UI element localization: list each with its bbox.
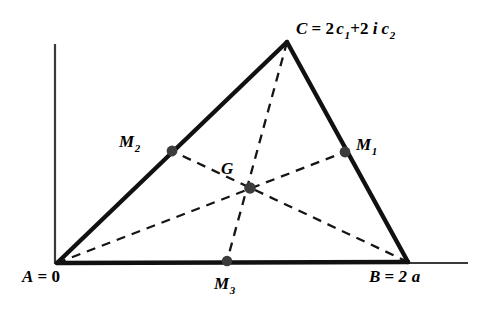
point-marker-m3 (222, 256, 232, 266)
label-m2-sub: 2 (134, 142, 140, 154)
label-vertex-a: A = 0 (22, 268, 60, 285)
label-c-coeff-1: 2 (326, 19, 335, 38)
label-g-name: G (221, 159, 233, 178)
label-point-m2: M2 (119, 133, 141, 154)
label-vertex-c: C = 2 c1+2 i c2 (296, 20, 395, 41)
label-c-sub-2: 2 (389, 29, 395, 41)
geometry-figure: A = 0 B = 2 a C = 2 c1+2 i c2 M1 M2 M3 G (0, 0, 492, 322)
median-a-m1 (57, 152, 345, 263)
label-c-equals: = (311, 19, 321, 38)
label-point-m1: M1 (356, 136, 378, 157)
label-a-value: 0 (52, 267, 61, 286)
label-a-equals: = (37, 267, 47, 286)
label-m3-sub: 3 (229, 284, 235, 296)
label-c-name: C (296, 19, 308, 38)
label-point-m3: M3 (214, 275, 236, 296)
label-m2-name: M (119, 132, 134, 151)
label-point-g: G (221, 160, 233, 177)
point-marker-m2 (167, 146, 178, 157)
label-b-name: B (369, 267, 381, 286)
label-b-value: 2 a (399, 267, 421, 286)
point-marker-g (244, 182, 256, 194)
label-vertex-b: B = 2 a (369, 268, 420, 285)
median-b-m2 (172, 151, 408, 262)
label-a-name: A (22, 267, 34, 286)
label-c-coeff-2: 2 (360, 19, 369, 38)
label-b-equals: = (384, 267, 394, 286)
label-c-plus: + (350, 19, 360, 38)
point-marker-m1 (340, 147, 351, 158)
median-c-m3 (227, 42, 287, 261)
label-c-var-1: c (336, 19, 344, 38)
label-m1-name: M (356, 135, 371, 154)
label-m1-sub: 1 (371, 145, 377, 157)
label-m3-name: M (214, 274, 229, 293)
triangle-side-ab (57, 262, 408, 263)
